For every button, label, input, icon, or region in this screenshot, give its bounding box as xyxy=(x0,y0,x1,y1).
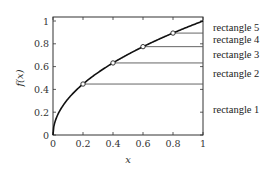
plot-border xyxy=(53,17,203,135)
axis-ticks xyxy=(53,17,203,135)
axes-frame xyxy=(53,17,203,135)
y-tick-label: 0.2 xyxy=(34,107,49,118)
data-point xyxy=(81,82,85,86)
x-tick-label: 0.8 xyxy=(165,138,180,149)
y-tick-label: 1 xyxy=(43,16,49,27)
x-axis-label: x xyxy=(125,154,131,165)
data-point xyxy=(111,61,115,65)
x-tick-label: 0.4 xyxy=(105,138,120,149)
rectangle-label: rectangle 3 xyxy=(213,49,259,60)
rectangle-label: rectangle 2 xyxy=(213,68,259,79)
data-point xyxy=(171,31,175,35)
rectangle-label: rectangle 1 xyxy=(213,104,259,115)
x-tick-label: 0.2 xyxy=(75,138,90,149)
x-tick-label: 1 xyxy=(200,138,206,149)
sqrt-curve xyxy=(53,21,203,135)
rectangle-annotations: rectangle 5rectangle 4rectangle 3rectang… xyxy=(213,22,260,115)
curve-markers xyxy=(81,31,175,86)
tick-labels: 00.20.40.60.8100.20.40.60.81 xyxy=(34,16,206,150)
rectangle-label: rectangle 4 xyxy=(213,34,260,45)
sqrt-function-chart: 00.20.40.60.8100.20.40.60.81 x f(x) rect… xyxy=(0,0,267,170)
data-point xyxy=(141,44,145,48)
rectangle-label: rectangle 5 xyxy=(213,22,259,33)
y-tick-label: 0.8 xyxy=(34,38,49,49)
y-axis-label: f(x) xyxy=(14,69,25,87)
x-tick-label: 0.6 xyxy=(135,138,150,149)
rectangle-lines xyxy=(83,33,203,84)
y-tick-label: 0.4 xyxy=(34,84,49,95)
y-tick-label: 0 xyxy=(43,130,49,141)
x-tick-label: 0 xyxy=(50,138,56,149)
y-tick-label: 0.6 xyxy=(34,61,49,72)
